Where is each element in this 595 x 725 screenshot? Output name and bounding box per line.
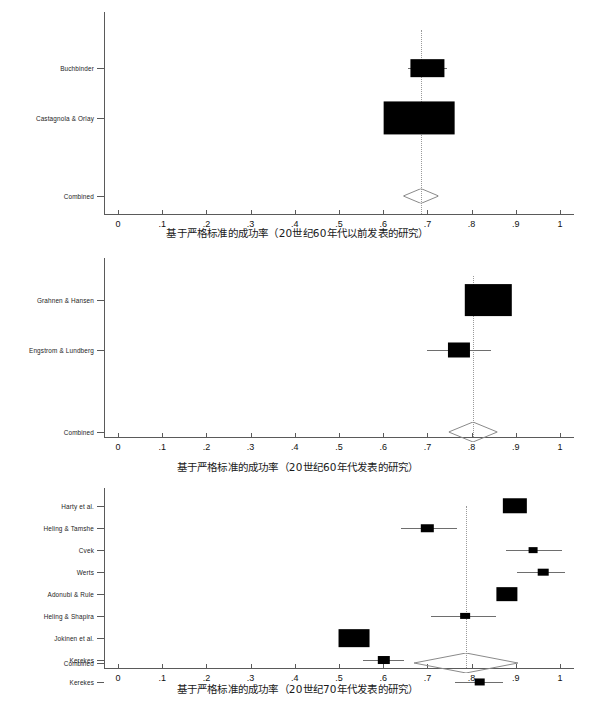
y-axis-tick: [97, 616, 104, 617]
y-axis-tick: [97, 660, 104, 661]
y-axis-tick: [97, 594, 104, 595]
study-effect-box: [503, 498, 527, 513]
forest-plot-figure: 0.1.2.3.4.5.6.7.8.91BuchbinderCastagnola…: [0, 0, 595, 725]
x-axis-tick: [206, 664, 207, 668]
forest-panel-panel-1970s: 0.1.2.3.4.5.6.7.8.91Harty et al.Heling &…: [0, 0, 595, 725]
y-axis-tick: [97, 638, 104, 639]
reference-line: [466, 506, 467, 668]
study-effect-box: [421, 524, 433, 532]
x-axis-tick: [560, 664, 561, 668]
study-label: Heling & Shapira: [44, 613, 94, 620]
y-axis-tick: [97, 506, 104, 507]
x-axis-tick: [118, 664, 119, 668]
y-axis-tick: [97, 550, 104, 551]
panel-caption: 基于严格标准的成功率（20世纪70年代发表的研究）: [0, 681, 595, 696]
combined-diamond: [414, 653, 518, 673]
combined-label: Combined: [64, 660, 94, 667]
study-label: Cvek: [79, 547, 94, 554]
study-label: Jokinen et al.: [54, 635, 94, 642]
x-axis-tick: [295, 664, 296, 668]
y-axis-line: [104, 488, 105, 668]
y-axis-tick: [97, 528, 104, 529]
study-effect-box: [460, 613, 470, 619]
study-effect-box: [538, 569, 549, 576]
x-axis-tick: [383, 664, 384, 668]
study-effect-box: [496, 587, 517, 601]
study-effect-box: [378, 656, 390, 664]
study-label: Adonubi & Rule: [47, 591, 94, 598]
x-axis-tick: [162, 664, 163, 668]
study-label: Harty et al.: [61, 503, 94, 510]
study-label: Werts: [77, 569, 94, 576]
x-axis-tick: [251, 664, 252, 668]
y-axis-tick-combined: [97, 663, 104, 664]
study-effect-box: [529, 547, 538, 553]
x-axis-tick: [339, 664, 340, 668]
study-label: Heling & Tamshe: [44, 525, 94, 532]
y-axis-tick: [97, 572, 104, 573]
study-effect-box: [338, 629, 369, 647]
